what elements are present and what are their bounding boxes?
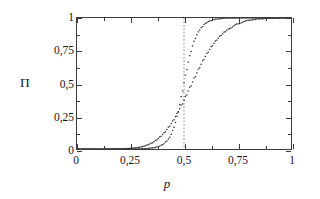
data-point [236,18,237,19]
data-point [216,18,217,19]
x-minor-tick-3 [266,146,267,149]
data-point [213,43,214,44]
data-point [249,20,250,21]
data-point [141,148,142,149]
data-point [82,148,83,149]
data-point [172,130,173,131]
data-point [135,148,136,149]
data-point [275,18,276,19]
y-minor-tick-3 [77,35,80,36]
data-point [229,28,230,29]
data-point [203,59,204,60]
y-minor-tick-2 [77,68,80,69]
data-point [246,20,247,21]
y-axis-title: Π [20,75,30,91]
data-point [218,18,219,19]
y-major-tick-right-0 [286,151,291,152]
data-point [166,140,167,141]
data-point [272,18,273,19]
data-point [159,136,160,137]
data-point [149,143,150,144]
data-point [282,18,283,19]
x-major-tick-top-2 [185,18,186,23]
data-point [220,35,221,36]
plot-area [77,18,291,149]
data-point [216,40,217,41]
data-point [240,22,241,23]
data-point [225,18,226,19]
data-point [79,148,80,149]
data-point [125,148,126,149]
data-point [203,24,204,25]
data-point [223,32,224,33]
data-point [179,104,180,105]
data-point [145,148,146,149]
x-major-tick-top-4 [293,18,294,23]
data-point [233,25,234,26]
data-point [178,111,179,112]
data-point [101,148,102,149]
data-point [253,19,254,20]
data-point [195,38,196,39]
data-point [260,18,261,19]
data-point [242,22,243,23]
x-major-tick-0 [77,144,78,149]
data-point [146,148,147,149]
data-point [253,18,254,19]
data-point [168,138,169,139]
data-point [146,144,147,145]
data-point [85,148,86,149]
y-minor-tick-right-1 [288,101,291,102]
data-point [199,67,200,68]
data-point [230,18,231,19]
data-point [222,33,223,34]
data-point [181,105,182,106]
data-point [89,148,90,149]
data-point [123,148,124,149]
data-point [273,18,274,19]
data-point [245,18,246,19]
data-point [142,148,143,149]
x-major-tick-4 [293,144,294,149]
data-point [152,142,153,143]
y-tick-label-4: 1 [68,11,74,23]
data-point [226,18,227,19]
data-point [155,140,156,141]
data-point [202,26,203,27]
data-point [245,20,246,21]
data-point [225,31,226,32]
data-point [81,148,82,149]
data-point [190,51,191,52]
data-point [126,148,127,149]
x-minor-tick-top-2 [212,18,213,21]
data-point [190,85,191,86]
data-point [163,143,164,144]
x-minor-tick-top-0 [104,18,105,21]
data-point [235,18,236,19]
y-tick-label-2: 0,5 [60,78,74,90]
data-point [182,90,183,91]
data-point [128,148,129,149]
x-minor-tick-2 [212,146,213,149]
data-point [258,18,259,19]
data-point [252,18,253,19]
data-point [163,132,164,133]
data-point [250,18,251,19]
data-point [238,23,239,24]
y-minor-tick-right-0 [288,134,291,135]
data-point [99,148,100,149]
data-point [232,26,233,27]
data-point [158,138,159,139]
data-point [169,137,170,138]
data-point [219,36,220,37]
data-point [143,146,144,147]
data-point [86,148,87,149]
data-point [212,45,213,46]
data-point [142,146,143,147]
data-point [188,90,189,91]
data-point [248,18,249,19]
data-point [248,20,249,21]
data-point [239,23,240,24]
data-point [215,18,216,19]
y-major-tick-2 [77,85,82,86]
